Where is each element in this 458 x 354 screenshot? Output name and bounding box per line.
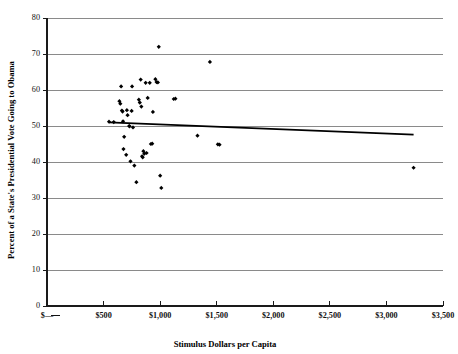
- x-tick-label: $1,000: [149, 311, 172, 320]
- x-tick-label: $1,500: [205, 311, 228, 320]
- y-axis: 01020304050607080: [32, 13, 47, 310]
- data-point: [159, 186, 163, 190]
- data-point: [139, 104, 143, 108]
- scatter-chart: 01020304050607080 $—$500$1,000$1,500$2,0…: [0, 0, 458, 354]
- y-tick-label: 70: [32, 49, 40, 58]
- data-point: [195, 134, 199, 138]
- y-tick-label: 10: [32, 265, 40, 274]
- data-point: [122, 135, 126, 139]
- y-tick-label: 50: [32, 121, 40, 130]
- data-point: [121, 147, 125, 151]
- data-point: [208, 60, 212, 64]
- x-axis: $—$500$1,000$1,500$2,000$2,500$3,000$3,5…: [41, 301, 454, 320]
- data-point: [411, 166, 415, 170]
- data-point: [132, 164, 136, 168]
- data-point: [125, 113, 129, 117]
- data-point: [127, 124, 131, 128]
- data-point: [151, 110, 155, 114]
- data-point: [130, 109, 134, 113]
- y-tick-label: 40: [32, 157, 40, 166]
- x-tick-label: $500: [95, 311, 111, 320]
- chart-canvas: 01020304050607080 $—$500$1,000$1,500$2,0…: [0, 0, 458, 354]
- y-axis-title: Percent of a State's Presidential Vote G…: [6, 60, 16, 259]
- trend-line: [109, 122, 414, 134]
- data-point: [125, 108, 129, 112]
- data-point: [130, 84, 134, 88]
- y-tick-label: 20: [32, 229, 40, 238]
- data-point: [144, 81, 148, 85]
- y-tick-label: 80: [32, 13, 40, 22]
- x-tick-label: $2,000: [262, 311, 285, 320]
- trend-line-segment: [109, 122, 414, 134]
- x-axis-title: Stimulus Dollars per Capita: [174, 339, 277, 349]
- x-tick-label: $3,000: [375, 311, 398, 320]
- y-tick-label: 60: [32, 85, 40, 94]
- data-points: [107, 45, 416, 190]
- data-point: [146, 96, 150, 100]
- data-point: [124, 153, 128, 157]
- data-point: [134, 180, 138, 184]
- x-tick-label: $2,500: [319, 311, 342, 320]
- data-point: [157, 45, 161, 49]
- data-point: [128, 159, 132, 163]
- data-point: [119, 84, 123, 88]
- y-tick-label: 0: [36, 301, 40, 310]
- data-point: [139, 77, 143, 81]
- gridlines: [47, 18, 443, 306]
- x-tick-label: $3,500: [432, 311, 455, 320]
- y-tick-label: 30: [32, 193, 40, 202]
- data-point: [148, 81, 152, 85]
- data-point: [158, 174, 162, 178]
